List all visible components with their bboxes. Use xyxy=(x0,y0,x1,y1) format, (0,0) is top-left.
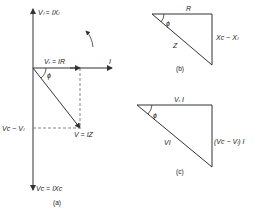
caption-b: (b) xyxy=(176,65,184,73)
power-triangle xyxy=(137,105,212,167)
figure-b: R ϕ Z Xᴄ − Xₗ (b) xyxy=(152,5,239,73)
label-r: R xyxy=(186,5,191,12)
caption-c: (c) xyxy=(176,168,184,176)
phi-arc xyxy=(41,68,46,78)
label-i: I xyxy=(109,58,111,65)
phasor-diagram-figure: Vₗ = IXₗ Vᵣ = IR I ϕ Vᴄ − Vₗ V = IZ Vᴄ =… xyxy=(0,0,260,215)
label-vc-minus-vl: Vᴄ − Vₗ xyxy=(2,125,25,132)
label-z: Z xyxy=(172,42,178,49)
diagram-svg: Vₗ = IXₗ Vᵣ = IR I ϕ Vᴄ − Vₗ V = IZ Vᴄ =… xyxy=(0,0,260,215)
v-phasor-arrow xyxy=(33,68,80,128)
label-v: V = IZ xyxy=(74,131,94,138)
rotation-arrow-icon xyxy=(86,31,93,47)
caption-a: (a) xyxy=(53,199,61,207)
phi-arc-b xyxy=(161,14,164,22)
phi-arc-c xyxy=(148,105,152,114)
label-phi-c: ϕ xyxy=(153,112,157,120)
label-xc-minus-xl: Xᴄ − Xₗ xyxy=(215,34,239,41)
label-phi-b: ϕ xyxy=(166,20,170,28)
label-phi-a: ϕ xyxy=(47,72,51,80)
label-vri: Vᵣ I xyxy=(174,96,184,103)
figure-a: Vₗ = IXₗ Vᵣ = IR I ϕ Vᴄ − Vₗ V = IZ Vᴄ =… xyxy=(2,9,112,207)
label-vc: Vᴄ = IXᴄ xyxy=(36,185,63,192)
figure-c: Vᵣ I ϕ VI (Vᴄ − Vₗ) I (c) xyxy=(137,96,244,176)
label-vl: Vₗ = IXₗ xyxy=(38,9,60,16)
label-vcvl-i: (Vᴄ − Vₗ) I xyxy=(214,138,244,146)
label-vi: VI xyxy=(164,139,171,146)
label-vr: Vᵣ = IR xyxy=(44,58,65,65)
